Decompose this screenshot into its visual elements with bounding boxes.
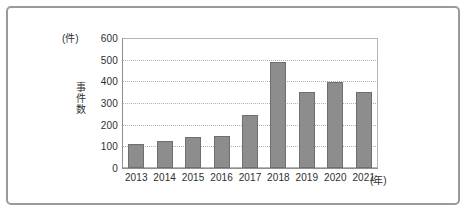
y-tick-500: 500 [0,54,118,65]
bar-2020 [327,82,343,168]
bar-chart: (件) 事 件 数 600 500 400 300 200 100 0 2013… [0,0,468,213]
y-axis-ticks: 600 500 400 300 200 100 0 [0,0,118,213]
x-axis-unit-label: (年) [370,172,387,187]
bar-2019 [299,92,315,168]
bar-2017 [242,115,258,168]
y-tick-200: 200 [0,119,118,130]
bar-2018 [270,62,286,168]
bar-2016 [214,136,230,169]
y-tick-400: 400 [0,76,118,87]
bar-2013 [128,144,144,168]
y-tick-100: 100 [0,141,118,152]
x-axis-line [122,168,378,169]
bar-2014 [157,141,173,168]
y-tick-600: 600 [0,33,118,44]
gridline-500 [122,60,378,61]
bar-2015 [185,137,201,168]
y-tick-300: 300 [0,98,118,109]
bar-2021 [356,92,372,168]
y-axis-line [122,38,123,168]
y-tick-0: 0 [0,163,118,174]
